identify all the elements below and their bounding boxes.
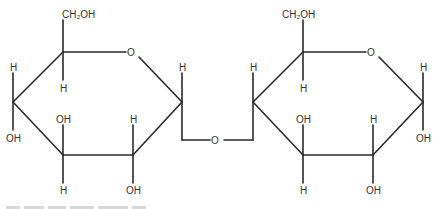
bridge-bonds <box>224 102 253 140</box>
disaccharide-structure-diagram: CH₂OH O H H H OH OH H H OH O CH₂OH O H H… <box>0 0 440 209</box>
right-ring-bonds <box>253 20 423 183</box>
bond-ringO-c1 <box>139 57 182 102</box>
right-c2-h-label: H <box>370 114 377 125</box>
bond-c4p-c5p <box>253 52 303 102</box>
structure-canvas: CH₂OH O H H H OH OH H H OH O CH₂OH O H H… <box>0 0 440 209</box>
bond-c4-c5 <box>13 52 63 102</box>
right-ring-oxygen-label: O <box>367 47 375 58</box>
bond-c3p-c4p <box>253 102 303 155</box>
bridge-oxygen-label: O <box>211 135 219 146</box>
left-c2-oh-label: OH <box>126 185 141 196</box>
right-c3-oh-label: OH <box>296 114 311 125</box>
right-c1-oh-label: OH <box>416 133 431 144</box>
left-c3-oh-label: OH <box>56 114 71 125</box>
left-c4-h-label: H <box>10 62 17 73</box>
left-ch2oh-label: CH₂OH <box>62 9 95 20</box>
right-c2-oh-label: OH <box>366 185 381 196</box>
cropped-caption-strip <box>0 204 440 209</box>
left-c2-h-label: H <box>130 114 137 125</box>
right-ring-labels: CH₂OH O H H H OH OH H H OH <box>250 9 431 196</box>
left-c4-oh-label: OH <box>6 133 21 144</box>
right-c1-h-label: H <box>420 62 427 73</box>
left-ring-bonds <box>13 20 210 183</box>
bond-c1p-c2p <box>373 102 423 155</box>
caption-fragment <box>0 204 440 209</box>
left-ring-labels: CH₂OH O H H H OH OH H H OH <box>6 9 186 196</box>
bond-c3-c4 <box>13 102 63 155</box>
bond-ringO-c1p <box>379 57 423 102</box>
left-c5-h-label: H <box>60 83 67 94</box>
right-ch2oh-label: CH₂OH <box>282 9 315 20</box>
left-c3-h-label: H <box>60 185 67 196</box>
left-c1-h-label: H <box>179 62 186 73</box>
right-c4-h-label: H <box>250 62 257 73</box>
bond-c1-c2 <box>133 102 182 155</box>
right-c5-h-label: H <box>300 83 307 94</box>
left-ring-oxygen-label: O <box>127 47 135 58</box>
right-c3-h-label: H <box>300 185 307 196</box>
